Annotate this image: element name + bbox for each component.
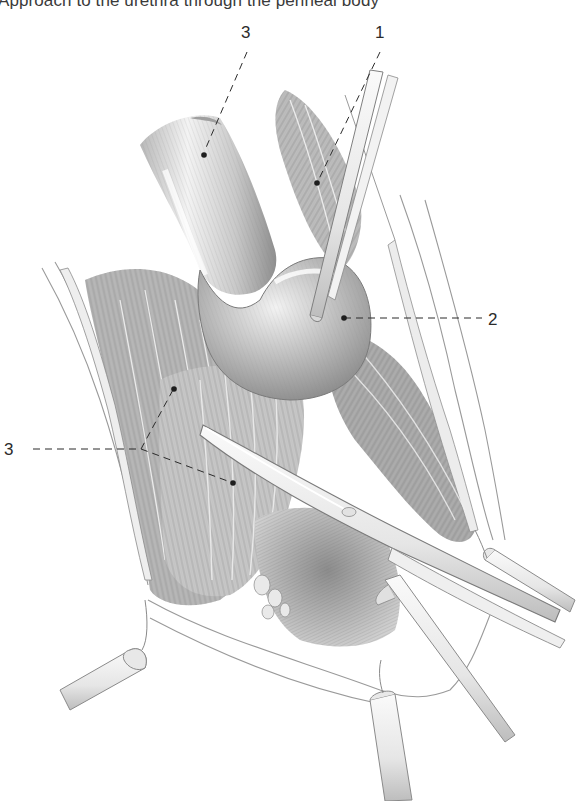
callout-label-3-left: 3	[4, 441, 13, 458]
anatomical-illustration	[0, 0, 586, 801]
dot-3-left-b	[230, 480, 236, 486]
callout-label-1: 1	[375, 24, 384, 41]
callout-label-3-top: 3	[241, 24, 250, 41]
dot-3-top	[201, 152, 207, 158]
retractor-bottom	[370, 660, 412, 801]
dot-2	[341, 315, 347, 321]
retractor-left	[60, 600, 147, 710]
dot-1	[314, 180, 320, 186]
dot-3-left-a	[171, 386, 177, 392]
callout-label-2: 2	[488, 311, 497, 328]
